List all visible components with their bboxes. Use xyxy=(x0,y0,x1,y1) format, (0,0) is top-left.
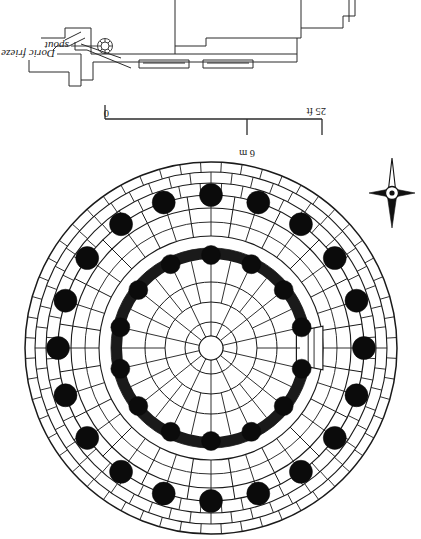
krepis-joint-outer xyxy=(201,524,202,534)
column-peristyle-columns xyxy=(152,191,175,214)
peristyle-paving-radial xyxy=(142,448,161,485)
krepis-joint-mid xyxy=(190,173,191,184)
scanned-figure-page: Doric frieze spout 25 ft 0 6 m xyxy=(0,0,421,539)
column-cella-columns xyxy=(202,432,221,451)
column-cella-columns xyxy=(129,281,148,300)
krepis-joint-mid xyxy=(149,502,153,512)
krepis-joint-outer xyxy=(387,358,397,359)
krepis-joint-mid xyxy=(250,508,253,519)
interior-paving-radial xyxy=(191,261,201,303)
krepis-joint-inner xyxy=(279,485,284,496)
krepis-joint-outer xyxy=(241,522,243,532)
krepis-joint-mid xyxy=(365,286,375,290)
krepis-joint-outer xyxy=(365,433,374,438)
krepis-joint-mid xyxy=(169,177,172,188)
krepis-joint-mid xyxy=(320,472,327,480)
krepis-joint-mid xyxy=(231,173,232,184)
interior-paving-radial xyxy=(147,333,200,345)
krepis-joint-outer xyxy=(328,479,335,486)
interior-paving-radial xyxy=(221,393,231,435)
krepis-joint-mid xyxy=(231,512,232,523)
column-cella-columns xyxy=(274,396,293,415)
krepis-joint-outer xyxy=(59,240,67,246)
peristyle-paving-radial xyxy=(311,399,348,418)
column-peristyle-columns xyxy=(47,337,70,360)
krepis-joint-outer xyxy=(72,465,79,472)
krepis-joint-mid xyxy=(320,216,327,224)
krepis-joint-mid xyxy=(36,368,47,369)
interior-paving-radial xyxy=(159,355,201,389)
interior-paving-radial xyxy=(131,368,170,387)
krepis-joint-outer xyxy=(374,277,383,281)
krepis-joint-mid xyxy=(46,286,56,290)
krepis-joint-outer xyxy=(387,338,397,339)
peristyle-paving-radial xyxy=(322,324,362,330)
krepis-joint-mid xyxy=(129,494,134,504)
krepis-joint-outer xyxy=(240,165,242,175)
krepis-joint-inner xyxy=(326,239,335,247)
krepis-joint-outer xyxy=(25,358,35,359)
krepis-joint-outer xyxy=(355,240,363,246)
krepis-joint-outer xyxy=(39,277,48,281)
krepis-joint-mid xyxy=(55,425,65,430)
krepis-joint-inner xyxy=(138,485,143,496)
krepis-joint-mid xyxy=(79,231,87,238)
column-cella-columns xyxy=(274,281,293,300)
column-peristyle-columns xyxy=(110,460,133,483)
scale-label-zero: 0 xyxy=(104,108,109,119)
column-peristyle-columns xyxy=(353,337,376,360)
krepis-joint-mid xyxy=(375,368,386,369)
peristyle-paving-radial xyxy=(262,212,281,249)
krepis-joint-inner xyxy=(312,463,320,472)
krepis-joint-inner xyxy=(179,498,181,510)
krepis-joint-inner xyxy=(348,275,359,280)
krepis-joint-outer xyxy=(121,185,126,194)
column-cella-columns xyxy=(292,359,311,378)
krepis-joint-mid xyxy=(371,306,382,309)
krepis-joint-inner xyxy=(49,378,61,380)
column-peristyle-columns xyxy=(200,490,223,513)
peristyle-paving-radial xyxy=(187,197,193,237)
krepis-joint-mid xyxy=(371,387,382,390)
column-peristyle-columns xyxy=(54,289,77,312)
krepis-joint-outer xyxy=(140,511,144,520)
column-peristyle-columns xyxy=(54,384,77,407)
column-cella-columns xyxy=(161,255,180,274)
krepis-joint-outer xyxy=(159,169,162,179)
krepis-joint-inner xyxy=(241,186,243,198)
krepis-joint-inner xyxy=(102,463,110,472)
krepis-joint-outer xyxy=(278,176,282,185)
column-cella-columns xyxy=(242,422,261,441)
interior-paving-radial xyxy=(182,359,205,408)
tholos-circular-plan xyxy=(22,159,400,537)
krepis-joint-inner xyxy=(63,416,74,421)
krepis-joint-outer xyxy=(380,397,390,400)
krepis-joint-mid xyxy=(357,425,367,430)
krepis-joint-mid xyxy=(250,177,253,188)
krepis-joint-inner xyxy=(279,200,284,211)
krepis-joint-mid xyxy=(111,484,117,493)
column-cella-columns xyxy=(202,246,221,265)
krepis-joint-outer xyxy=(180,165,182,175)
graphic-scale-bar: 25 ft 0 6 m xyxy=(101,101,326,159)
krepis-joint-mid xyxy=(270,502,274,512)
peristyle-paving-radial xyxy=(187,459,193,499)
krepis-joint-mid xyxy=(36,327,47,328)
krepis-joint-outer xyxy=(72,224,79,231)
krepis-joint-mid xyxy=(335,231,343,238)
krepis-joint-mid xyxy=(40,387,51,390)
peristyle-paving-radial xyxy=(229,459,235,499)
krepis-joint-outer xyxy=(380,296,390,299)
peristyle-paving-radial xyxy=(322,366,362,372)
label-spout: spout xyxy=(45,40,69,52)
krepis-joint-mid xyxy=(305,484,311,493)
interior-paving-radial xyxy=(191,393,201,435)
peristyle-paving-radial xyxy=(311,279,348,298)
krepis-joint-outer xyxy=(355,450,363,456)
column-cella-columns xyxy=(129,396,148,415)
column-cella-columns xyxy=(111,359,130,378)
krepis-joint-outer xyxy=(32,297,42,300)
krepis-joint-outer xyxy=(278,511,282,520)
krepis-joint-outer xyxy=(103,196,109,204)
krepis-joint-mid xyxy=(335,457,343,464)
